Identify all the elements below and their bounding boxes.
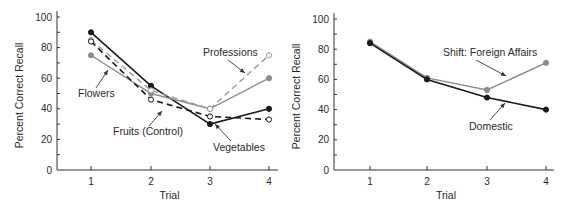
x-axis-label: Trial xyxy=(159,189,179,201)
y-axis-label: Percent Correct Recall xyxy=(13,43,25,149)
x-axis-label: Trial xyxy=(436,189,456,201)
data-point-domestic xyxy=(543,107,548,112)
x-tick-label: 2 xyxy=(424,176,430,187)
y-tick-label: 40 xyxy=(41,103,53,114)
data-point-domestic xyxy=(484,95,489,100)
x-tick-label: 1 xyxy=(367,176,373,187)
annotation-professions: Professions xyxy=(203,46,258,58)
data-point-fruits-control xyxy=(148,97,153,102)
data-point-shift-foreign-affairs xyxy=(543,60,548,65)
data-point-professions xyxy=(148,88,153,93)
y-tick-label: 0 xyxy=(46,165,52,176)
data-point-vegetables xyxy=(266,106,271,111)
x-tick-label: 3 xyxy=(207,176,213,187)
arrowhead-icon xyxy=(103,70,108,75)
data-point-flowers xyxy=(88,53,93,58)
charts-container: 0204060801001234TrialPercent Correct Rec… xyxy=(0,0,574,207)
y-tick-label: 0 xyxy=(323,165,329,176)
data-point-vegetables xyxy=(207,122,212,127)
annotation-fruits-control: Fruits (Control) xyxy=(113,125,183,137)
data-point-vegetables xyxy=(88,30,93,35)
y-tick-label: 80 xyxy=(318,44,330,55)
annotation-arrow xyxy=(476,60,506,76)
chart-left: 0204060801001234TrialPercent Correct Rec… xyxy=(13,11,278,201)
left-axes: 0204060801001234TrialPercent Correct Rec… xyxy=(13,11,278,201)
y-tick-label: 60 xyxy=(41,73,53,84)
y-tick-label: 40 xyxy=(318,104,330,115)
data-point-flowers xyxy=(266,76,271,81)
annotation-domestic: Domestic xyxy=(469,120,513,132)
x-tick-label: 2 xyxy=(148,176,154,187)
data-point-fruits-control xyxy=(207,114,212,119)
data-point-professions xyxy=(207,106,212,111)
annotation-shift-foreign-affairs: Shift: Foreign Affairs xyxy=(443,46,537,58)
y-tick-label: 100 xyxy=(35,12,52,23)
y-axis-label: Percent Correct Recall xyxy=(290,44,302,150)
data-point-domestic xyxy=(424,77,429,82)
annotation-vegetables: Vegetables xyxy=(213,141,265,153)
y-tick-label: 20 xyxy=(41,134,53,145)
chart-right: 0204060801001234TrialPercent Correct Rec… xyxy=(290,13,554,201)
left-series xyxy=(88,30,271,127)
annotation-flowers: Flowers xyxy=(78,87,115,99)
y-tick-label: 20 xyxy=(318,134,330,145)
recall-charts: 0204060801001234TrialPercent Correct Rec… xyxy=(0,0,574,207)
data-point-professions xyxy=(266,53,271,58)
x-tick-label: 4 xyxy=(543,176,549,187)
data-point-shift-foreign-affairs xyxy=(484,87,489,92)
data-point-domestic xyxy=(367,41,372,46)
data-point-fruits-control xyxy=(88,39,93,44)
right-axes: 0204060801001234TrialPercent Correct Rec… xyxy=(290,13,554,201)
x-tick-label: 1 xyxy=(88,176,94,187)
x-tick-label: 3 xyxy=(484,176,490,187)
x-tick-label: 4 xyxy=(266,176,272,187)
arrowhead-icon xyxy=(240,68,245,73)
y-tick-label: 80 xyxy=(41,42,53,53)
y-tick-label: 100 xyxy=(312,14,329,25)
data-point-fruits-control xyxy=(266,117,271,122)
y-tick-label: 60 xyxy=(318,74,330,85)
